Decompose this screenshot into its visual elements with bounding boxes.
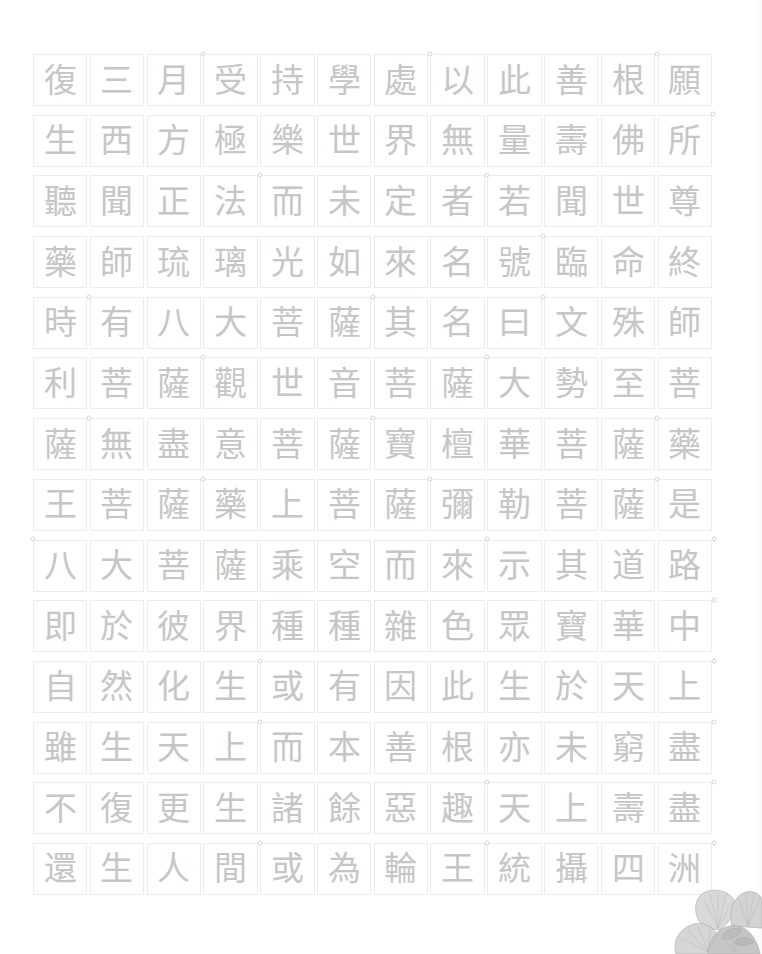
character: 大	[498, 367, 531, 400]
practice-cell: 趣	[430, 782, 484, 834]
character: 上	[555, 792, 588, 825]
practice-cell: 菩	[658, 357, 712, 409]
character: 未	[555, 731, 588, 764]
character: 薩	[328, 428, 361, 461]
practice-cell: 殊	[601, 297, 655, 349]
character: 華	[612, 610, 645, 643]
practice-cell: 生	[90, 722, 144, 774]
character: 尊	[668, 185, 701, 218]
practice-cell: 未	[544, 722, 598, 774]
character: 意	[214, 428, 247, 461]
character: 菩	[271, 306, 304, 339]
character: 餘	[328, 792, 361, 825]
practice-cell: 寶	[544, 600, 598, 652]
grid-row: 還 生 人 間 或 為 輪 王 統 攝 四 洲	[33, 843, 712, 895]
character: 勒	[498, 488, 531, 521]
character: 示	[498, 549, 531, 582]
character: 復	[44, 64, 77, 97]
character: 生	[100, 852, 133, 885]
practice-cell: 音	[317, 357, 371, 409]
character: 終	[668, 246, 701, 279]
practice-cell: 因	[374, 661, 428, 713]
practice-cell: 薩	[430, 357, 484, 409]
practice-cell: 時	[33, 297, 87, 349]
corner-mark	[371, 416, 376, 421]
character: 菩	[328, 488, 361, 521]
character: 諸	[271, 792, 304, 825]
character: 上	[271, 488, 304, 521]
practice-cell: 窮	[601, 722, 655, 774]
character: 色	[441, 610, 474, 643]
character: 生	[214, 792, 247, 825]
character: 殊	[612, 306, 645, 339]
practice-cell: 菩	[90, 357, 144, 409]
corner-mark	[485, 780, 490, 785]
character: 有	[100, 306, 133, 339]
practice-cell: 有	[317, 661, 371, 713]
character: 琉	[157, 246, 190, 279]
practice-cell: 琉	[147, 236, 201, 288]
character: 道	[612, 549, 645, 582]
character: 八	[157, 306, 190, 339]
character: 因	[384, 670, 417, 703]
character: 正	[157, 185, 190, 218]
character: 菩	[157, 549, 190, 582]
character: 如	[328, 246, 361, 279]
grid-row: 生 西 方 極 樂 世 界 無 量 壽 佛 所	[33, 115, 712, 167]
practice-cell: 華	[601, 600, 655, 652]
corner-mark	[712, 598, 717, 603]
practice-cell: 為	[317, 843, 371, 895]
character: 世	[271, 367, 304, 400]
practice-cell: 或	[260, 843, 314, 895]
practice-cell: 無	[430, 115, 484, 167]
practice-cell: 薩	[33, 418, 87, 470]
character: 大	[100, 549, 133, 582]
corner-mark	[712, 841, 717, 846]
character: 天	[157, 731, 190, 764]
practice-cell: 而	[260, 722, 314, 774]
character: 王	[441, 852, 474, 885]
practice-cell: 終	[658, 236, 712, 288]
practice-cell: 佛	[601, 115, 655, 167]
practice-cell: 大	[487, 357, 541, 409]
practice-cell: 菩	[260, 418, 314, 470]
grid-row: 雖 生 天 上 而 本 善 根 亦 未 窮 盡	[33, 722, 712, 774]
practice-cell: 根	[601, 54, 655, 106]
character: 菩	[555, 428, 588, 461]
practice-cell: 菩	[544, 479, 598, 531]
character: 西	[100, 124, 133, 157]
practice-cell: 藥	[658, 418, 712, 470]
character: 空	[328, 549, 361, 582]
character: 月	[157, 64, 190, 97]
character: 生	[100, 731, 133, 764]
character: 不	[44, 792, 77, 825]
practice-cell: 如	[317, 236, 371, 288]
practice-cell: 薩	[601, 479, 655, 531]
character: 於	[100, 610, 133, 643]
practice-cell: 或	[260, 661, 314, 713]
practice-cell: 方	[147, 115, 201, 167]
practice-cell: 觀	[203, 357, 257, 409]
corner-mark	[31, 537, 36, 542]
character: 善	[555, 64, 588, 97]
character: 聽	[44, 185, 77, 218]
corner-mark	[87, 416, 92, 421]
character: 以	[441, 64, 474, 97]
practice-cell: 至	[601, 357, 655, 409]
practice-cell: 世	[317, 115, 371, 167]
character: 至	[612, 367, 645, 400]
character: 上	[214, 731, 247, 764]
corner-mark	[712, 720, 717, 725]
practice-cell: 尊	[658, 175, 712, 227]
character: 受	[214, 64, 247, 97]
character: 佛	[612, 124, 645, 157]
practice-cell: 利	[33, 357, 87, 409]
character: 號	[498, 246, 531, 279]
character: 薩	[157, 488, 190, 521]
character: 勢	[555, 367, 588, 400]
grid-row: 王 菩 薩 藥 上 菩 薩 彌 勒 菩 薩 是	[33, 479, 712, 531]
character: 彌	[441, 488, 474, 521]
corner-mark	[485, 355, 490, 360]
practice-cell: 薩	[601, 418, 655, 470]
character: 種	[271, 610, 304, 643]
